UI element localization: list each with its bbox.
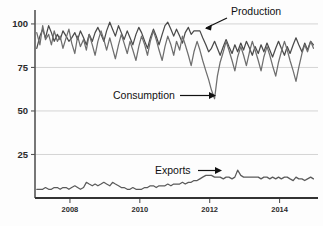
x-tick-label-2014: 2014 bbox=[271, 205, 289, 214]
chart-container: 255075100 2008201020122014 Production Co… bbox=[0, 0, 323, 226]
line-chart: 255075100 2008201020122014 Production Co… bbox=[0, 0, 323, 226]
y-tick-label-75: 75 bbox=[17, 62, 28, 73]
x-tick-label-2008: 2008 bbox=[62, 205, 79, 214]
annotation-exports: Exports bbox=[155, 164, 222, 176]
y-tick-labels: 255075100 bbox=[12, 18, 29, 160]
annotation-exports-label: Exports bbox=[155, 164, 191, 176]
x-tick-label-2012: 2012 bbox=[201, 205, 218, 214]
annotation-exports-arrowhead bbox=[215, 167, 222, 174]
y-tick-label-100: 100 bbox=[12, 18, 28, 29]
annotation-consumption: Consumption bbox=[113, 89, 216, 101]
y-tick-label-50: 50 bbox=[17, 105, 28, 116]
caption-strip bbox=[40, 218, 290, 226]
y-tick-label-25: 25 bbox=[17, 149, 28, 160]
annotation-consumption-label: Consumption bbox=[113, 89, 175, 101]
series-line-consumption bbox=[37, 26, 314, 99]
x-tick-label-2010: 2010 bbox=[131, 205, 148, 214]
x-tick-labels: 2008201020122014 bbox=[62, 205, 289, 214]
annotation-production-label: Production bbox=[231, 5, 281, 17]
annotation-production: Production bbox=[205, 5, 281, 31]
